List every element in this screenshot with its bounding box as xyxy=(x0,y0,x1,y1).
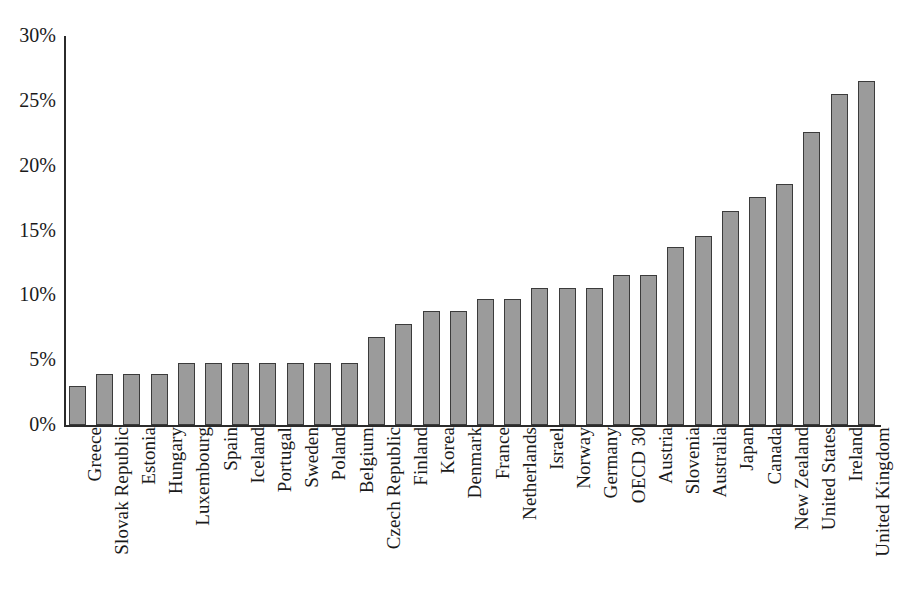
bar-rect xyxy=(287,363,304,425)
y-tick-label: 30% xyxy=(0,25,56,45)
x-tick-label-text: Germany xyxy=(601,427,620,502)
bar-rect xyxy=(613,275,630,425)
bar-sweden[interactable] xyxy=(287,36,304,425)
x-tick-label-text: France xyxy=(493,427,512,483)
bar-finland[interactable] xyxy=(395,36,412,425)
bar-rect xyxy=(586,288,603,425)
bar-greece[interactable] xyxy=(69,36,86,425)
x-tick-label-austria: Austria xyxy=(656,427,675,488)
bar-portugal[interactable] xyxy=(259,36,276,425)
bar-australia[interactable] xyxy=(695,36,712,425)
x-tick-label-text: Denmark xyxy=(465,427,484,502)
bar-rect xyxy=(232,363,249,425)
x-tick-label-text: United States xyxy=(819,427,838,534)
bar-spain[interactable] xyxy=(205,36,222,425)
bar-rect xyxy=(314,363,331,425)
x-tick-label-netherlands: Netherlands xyxy=(520,427,539,524)
bar-united-states[interactable] xyxy=(803,36,820,425)
x-tick-label-norway: Norway xyxy=(574,427,593,493)
bar-czech-republic[interactable] xyxy=(368,36,385,425)
x-tick-label-united-kingdom: United Kingdom xyxy=(873,427,892,561)
x-tick-label-text: Slovenia xyxy=(683,427,702,498)
bar-japan[interactable] xyxy=(722,36,739,425)
bar-korea[interactable] xyxy=(423,36,440,425)
x-tick-label-text: Czech Republic xyxy=(384,427,403,553)
x-tick-label-czech-republic: Czech Republic xyxy=(384,427,403,553)
bar-rect xyxy=(640,275,657,425)
x-tick-label-france: France xyxy=(493,427,512,483)
x-tick-label-text: Japan xyxy=(737,427,756,475)
x-tick-label-hungary: Hungary xyxy=(166,427,185,498)
bar-rect xyxy=(504,299,521,425)
bar-rect xyxy=(395,324,412,425)
x-tick-label-estonia: Estonia xyxy=(139,427,158,489)
bar-united-kingdom[interactable] xyxy=(858,36,875,425)
y-tick-label: 15% xyxy=(0,220,56,240)
x-tick-label-text: Finland xyxy=(411,427,430,490)
bar-hungary[interactable] xyxy=(151,36,168,425)
x-tick-label-canada: Canada xyxy=(765,427,784,489)
x-tick-label-poland: Poland xyxy=(329,427,348,484)
x-tick-label-text: Iceland xyxy=(248,427,267,488)
bar-ireland[interactable] xyxy=(831,36,848,425)
y-tick-label: 10% xyxy=(0,284,56,304)
bar-estonia[interactable] xyxy=(123,36,140,425)
bar-rect xyxy=(858,81,875,425)
bar-france[interactable] xyxy=(477,36,494,425)
x-tick-label-greece: Greece xyxy=(85,427,104,485)
bar-rect xyxy=(423,311,440,425)
bar-israel[interactable] xyxy=(531,36,548,425)
x-tick-label-text: Poland xyxy=(329,427,348,484)
bar-rect xyxy=(776,184,793,425)
bar-slovenia[interactable] xyxy=(667,36,684,425)
x-tick-label-israel: Israel xyxy=(547,427,566,474)
bar-rect xyxy=(450,311,467,425)
x-tick-label-slovak-republic: Slovak Republic xyxy=(112,427,131,559)
x-tick-label-iceland: Iceland xyxy=(248,427,267,488)
x-tick-label-text: Slovak Republic xyxy=(112,427,131,559)
bar-rect xyxy=(559,288,576,425)
x-tick-label-text: Luxembourg xyxy=(193,427,212,530)
bar-rect xyxy=(341,363,358,425)
bar-belgium[interactable] xyxy=(341,36,358,425)
bar-canada[interactable] xyxy=(749,36,766,425)
bar-iceland[interactable] xyxy=(232,36,249,425)
x-tick-label-text: Spain xyxy=(221,427,240,475)
y-tick-label: 25% xyxy=(0,90,56,110)
y-tick-label: 20% xyxy=(0,155,56,175)
x-tick-label-belgium: Belgium xyxy=(357,427,376,497)
bar-rect xyxy=(368,337,385,425)
bar-rect xyxy=(178,363,195,425)
bar-rect xyxy=(259,363,276,425)
bar-chart: 0%5%10%15%20%25%30% GreeceSlovak Republi… xyxy=(0,0,906,613)
bar-rect xyxy=(695,236,712,425)
bar-austria[interactable] xyxy=(640,36,657,425)
x-tick-label-ireland: Ireland xyxy=(846,427,865,486)
x-tick-label-oecd-30: OECD 30 xyxy=(629,427,648,507)
x-tick-label-luxembourg: Luxembourg xyxy=(193,427,212,530)
bar-oecd-30[interactable] xyxy=(613,36,630,425)
bar-luxembourg[interactable] xyxy=(178,36,195,425)
x-tick-label-korea: Korea xyxy=(438,427,457,478)
bar-netherlands[interactable] xyxy=(504,36,521,425)
bar-rect xyxy=(123,374,140,425)
bar-rect xyxy=(749,197,766,425)
bar-new-zealand[interactable] xyxy=(776,36,793,425)
bar-rect xyxy=(831,94,848,425)
bars-layer xyxy=(64,36,885,427)
x-axis-labels: GreeceSlovak RepublicEstoniaHungaryLuxem… xyxy=(64,427,885,613)
x-tick-label-denmark: Denmark xyxy=(465,427,484,502)
bar-norway[interactable] xyxy=(559,36,576,425)
x-tick-label-text: Canada xyxy=(765,427,784,489)
x-tick-label-text: Ireland xyxy=(846,427,865,486)
bar-poland[interactable] xyxy=(314,36,331,425)
x-tick-label-text: Sweden xyxy=(302,427,321,492)
x-tick-label-text: Estonia xyxy=(139,427,158,489)
bar-rect xyxy=(96,374,113,425)
bar-denmark[interactable] xyxy=(450,36,467,425)
y-tick-label: 5% xyxy=(0,349,56,369)
x-tick-label-text: New Zealand xyxy=(792,427,811,534)
x-tick-label-finland: Finland xyxy=(411,427,430,490)
bar-germany[interactable] xyxy=(586,36,603,425)
bar-slovak-republic[interactable] xyxy=(96,36,113,425)
